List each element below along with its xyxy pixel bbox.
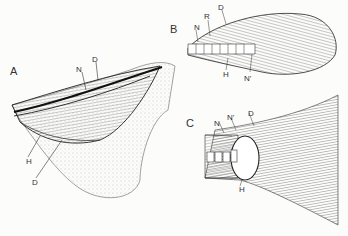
panel-c-drawing bbox=[205, 95, 338, 225]
figure-canvas: A B C N D H D N R D H N' N N' D H bbox=[0, 0, 348, 236]
panel-label-a: A bbox=[10, 66, 17, 77]
annotation-c-notochord-prime: N' bbox=[227, 114, 234, 122]
annotation-a-dermal: D bbox=[32, 179, 38, 187]
annotation-c-dorsal: D bbox=[248, 110, 254, 118]
annotation-a-notochord: N bbox=[76, 66, 82, 74]
annotation-a-hypural: H bbox=[26, 158, 32, 166]
panel-label-b: B bbox=[170, 24, 177, 35]
annotation-c-notochord: N bbox=[214, 120, 220, 128]
annotation-b-hypural: H bbox=[223, 71, 229, 79]
panel-label-c: C bbox=[186, 118, 194, 129]
annotation-b-radial: R bbox=[204, 13, 210, 21]
annotation-a-dorsal: D bbox=[92, 56, 98, 64]
annotation-b-notochord-prime: N' bbox=[244, 75, 251, 83]
annotation-c-hypural: H bbox=[239, 186, 245, 194]
annotation-b-notochord: N bbox=[194, 24, 200, 32]
annotation-b-dorsal: D bbox=[218, 4, 224, 12]
fish-tail-illustration bbox=[0, 0, 348, 236]
panel-b-drawing bbox=[188, 10, 336, 74]
